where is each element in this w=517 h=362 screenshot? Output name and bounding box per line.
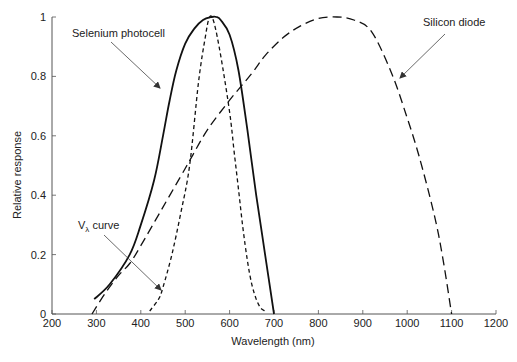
series-layer [92, 16, 452, 314]
y-axis-title: Relative response [11, 131, 23, 219]
spectral-response-chart: 200300400500600700800900100011001200 00.… [0, 0, 517, 362]
y-tick-label: 0.2 [31, 249, 46, 261]
x-axis-title: Wavelength (nm) [231, 335, 314, 347]
x-tick-label: 400 [132, 317, 150, 329]
x-tick-label: 900 [354, 317, 372, 329]
series-v-curve [150, 16, 265, 311]
x-tick-label: 1000 [395, 317, 419, 329]
x-tick-label: 300 [87, 317, 105, 329]
y-tick-label: 0.8 [31, 70, 46, 82]
x-tick-label: 1200 [484, 317, 508, 329]
series-selenium-photocell [94, 17, 274, 314]
silicon-arrow-icon [400, 34, 445, 78]
selenium-arrow-icon [111, 42, 160, 88]
selenium-photocell-label: Selenium photocell [72, 27, 165, 39]
x-tick-label: 800 [309, 317, 327, 329]
annotations: Selenium photocell Silicon diode Vλ curv… [72, 16, 485, 290]
x-tick-label: 600 [220, 317, 238, 329]
series-silicon-diode [92, 17, 452, 314]
y-tick-label: 0.6 [31, 130, 46, 142]
silicon-diode-label: Silicon diode [423, 16, 485, 28]
x-axis-ticks: 200300400500600700800900100011001200 [43, 310, 508, 329]
v-lambda-rest: curve [89, 219, 119, 231]
x-tick-label: 1100 [440, 317, 464, 329]
v-lambda-curve-label: Vλ curve [78, 219, 119, 234]
y-tick-label: 0 [40, 308, 46, 320]
x-tick-label: 700 [265, 317, 283, 329]
y-tick-label: 1 [40, 11, 46, 23]
y-tick-label: 0.4 [31, 189, 46, 201]
x-tick-label: 500 [176, 317, 194, 329]
